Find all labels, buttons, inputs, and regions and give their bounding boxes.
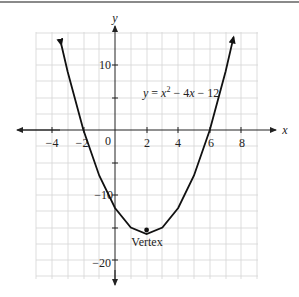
y-axis-label: y <box>111 11 118 25</box>
y-tick-label: −20 <box>92 256 111 270</box>
x-tick-label: 4 <box>175 136 181 150</box>
x-tick-label: −4 <box>46 136 59 150</box>
x-axis-label: x <box>281 123 288 137</box>
origin-label: 0 <box>105 134 111 148</box>
vertex-point <box>144 228 149 233</box>
y-tick-label: 10 <box>99 58 111 72</box>
eq-mid: − 4 <box>170 86 189 100</box>
x-tick-label: 8 <box>239 136 245 150</box>
equation-label: y = x2 − 4x − 12 <box>142 85 219 100</box>
x-tick-label: 2 <box>144 136 150 150</box>
x-tick-label: 6 <box>208 136 214 150</box>
eq-equals: = <box>148 86 161 100</box>
eq-end: − 12 <box>195 86 220 100</box>
parabola-chart: −4 −2 0 2 4 6 8 10 −10 −20 y x Vertex y … <box>0 0 299 297</box>
vertex-label: Vertex <box>131 235 162 249</box>
